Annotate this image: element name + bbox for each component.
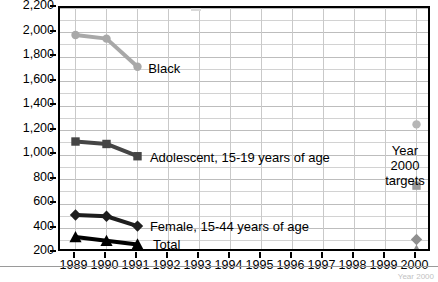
data-point-square [71,137,79,145]
x-tick-mark [414,252,416,258]
y-tick-mark [50,226,56,228]
x-tick-mark [73,252,75,258]
y-tick-mark [50,5,56,7]
targets-line-1: Year [376,143,434,158]
data-point-circle [71,31,79,39]
data-point-diamond [101,211,112,222]
footer-note: Year 2000 [398,272,434,281]
series-circle [71,31,420,129]
series-label: Black [148,62,180,76]
y-tick-label: 1,600 [2,73,54,85]
y-tick-mark [50,177,56,179]
targets-line-2: 2000 [376,158,434,173]
y-tick-mark [50,128,56,130]
y-tick-mark [50,54,56,56]
data-point-diamond [70,209,81,220]
x-tick-mark [166,252,168,258]
data-series-layer [60,8,430,251]
x-tick-mark [228,252,230,258]
y-tick-label: 1,000 [2,146,54,158]
y-tick-mark [50,201,56,203]
top-edge-tick [191,8,201,11]
y-tick-label: 1,800 [2,48,54,60]
x-tick-mark [321,252,323,258]
x-tick-mark [104,252,106,258]
x-tick-mark [352,252,354,258]
x-tick-label: 2000 [395,258,435,272]
plot-area: BlackAdolescent, 15-19 years of ageFemal… [58,6,430,251]
x-axis: 1989199019911992199319941995199619971998… [0,252,438,274]
y-tick-label: 1,200 [2,122,54,134]
targets-line-3: targets [376,173,434,188]
x-tick-mark [197,252,199,258]
y-tick-label: 400 [2,220,54,232]
y-tick-mark [50,103,56,105]
data-point-circle [102,34,110,42]
y-tick-label: 800 [2,171,54,183]
target-marker-diamond [411,234,422,245]
data-point-square [102,140,110,148]
x-tick-mark [383,252,385,258]
y-tick-mark [50,152,56,154]
x-tick-mark [259,252,261,258]
y-tick-label: 2,200 [2,0,54,11]
target-marker-circle [412,120,420,128]
data-point-circle [133,63,141,71]
x-tick-mark [290,252,292,258]
year-2000-targets-label: Year 2000 targets [376,143,434,188]
y-tick-mark [50,79,56,81]
x-tick-mark [135,252,137,258]
series-label: Total [153,238,180,251]
data-point-diamond [132,220,143,231]
y-tick-mark [50,30,56,32]
data-point-square [133,152,141,160]
y-axis: 2,2002,0001,8001,6001,4001,2001,00080060… [0,0,58,282]
y-tick-label: 600 [2,195,54,207]
series-label: Adolescent, 15-19 years of age [150,151,330,165]
chart-figure: 2,2002,0001,8001,6001,4001,2001,00080060… [0,0,438,282]
footer-divider [0,266,438,267]
series-label: Female, 15-44 years of age [150,220,309,234]
target-marker-triangle [410,244,422,251]
y-tick-label: 2,000 [2,24,54,36]
y-tick-label: 1,400 [2,97,54,109]
